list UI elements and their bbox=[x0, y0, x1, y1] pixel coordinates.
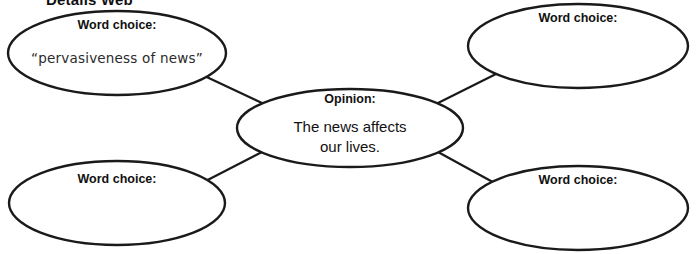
web-diagram-canvas: Word choice: “pervasiveness of news” Wor… bbox=[0, 0, 696, 254]
node-bottom-right[interactable]: Word choice: bbox=[468, 166, 688, 250]
page-title-clip: Details Web bbox=[0, 0, 696, 7]
node-top-left-label: Word choice: bbox=[78, 18, 157, 32]
node-bottom-left-label: Word choice: bbox=[78, 172, 157, 186]
node-bottom-right-label: Word choice: bbox=[539, 173, 618, 187]
connector-bottom-right bbox=[438, 152, 500, 186]
page-title: Details Web bbox=[46, 0, 133, 7]
node-top-right[interactable]: Word choice: bbox=[468, 4, 688, 88]
details-web-organizer: Details Web Word choice: “pervasiveness … bbox=[0, 0, 696, 254]
node-top-right-label: Word choice: bbox=[539, 11, 618, 25]
node-center-body-line1: The news affects bbox=[293, 118, 406, 135]
node-top-left-body: “pervasiveness of news” bbox=[31, 50, 203, 66]
node-center-opinion[interactable]: Opinion: The news affects our lives. bbox=[237, 89, 463, 167]
node-bottom-left[interactable]: Word choice: bbox=[9, 161, 225, 245]
connector-top-right bbox=[438, 72, 500, 103]
node-top-left[interactable]: Word choice: “pervasiveness of news” bbox=[8, 11, 226, 95]
node-center-label: Opinion: bbox=[324, 92, 375, 106]
node-center-body-line2: our lives. bbox=[320, 138, 380, 155]
